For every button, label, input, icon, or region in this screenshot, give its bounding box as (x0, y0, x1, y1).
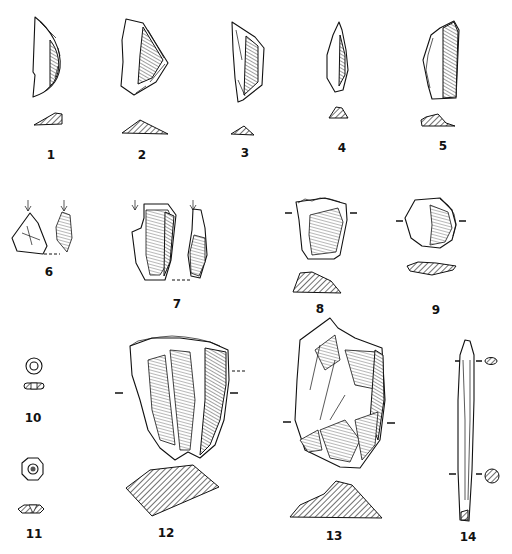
artifact-6 (12, 200, 72, 254)
artifact-2 (121, 19, 168, 134)
artifact-9 (396, 198, 466, 275)
artifact-3 (231, 22, 264, 135)
artifact-8 (285, 198, 357, 293)
artifact-label-2: 2 (138, 149, 146, 161)
artifact-label-6: 6 (45, 266, 53, 278)
artifact-14 (449, 340, 499, 521)
artifact-1 (33, 17, 62, 125)
artifact-label-1: 1 (47, 149, 55, 161)
artifact-11 (18, 458, 44, 513)
artifact-label-12: 12 (158, 527, 175, 539)
artifact-10 (24, 358, 44, 389)
artifact-4 (327, 22, 348, 118)
artifact-13 (283, 318, 395, 518)
artifact-label-7: 7 (173, 298, 181, 310)
artifact-label-3: 3 (241, 147, 249, 159)
artifact-label-13: 13 (326, 530, 343, 542)
artifact-plate (0, 0, 512, 554)
artifact-12 (115, 336, 245, 516)
artifact-label-11: 11 (26, 528, 43, 540)
artifact-label-8: 8 (316, 303, 324, 315)
artifact-5 (421, 21, 459, 126)
artifact-label-14: 14 (460, 531, 477, 543)
artifact-label-10: 10 (25, 412, 42, 424)
artifact-label-9: 9 (432, 304, 440, 316)
artifact-label-4: 4 (338, 142, 346, 154)
artifact-label-5: 5 (439, 140, 447, 152)
artifact-7 (132, 200, 207, 280)
